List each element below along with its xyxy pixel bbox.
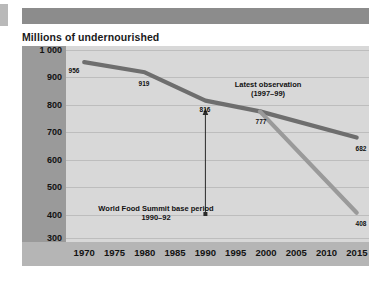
left-edge-decoration xyxy=(0,4,8,26)
y-tick-label: 400 xyxy=(47,210,62,220)
y-tick-label: 700 xyxy=(47,127,62,137)
x-tick-label: 1970 xyxy=(74,247,95,258)
y-tick-label: 900 xyxy=(47,72,62,82)
point-value-label-2015-lower: 408 xyxy=(356,220,367,227)
x-tick-label: 2005 xyxy=(286,247,307,258)
summit-base-period-annotation: World Food Summit base period 1990–92 xyxy=(98,204,213,223)
y-tick-label: 500 xyxy=(47,182,62,192)
latest-observation-line1: Latest observation xyxy=(235,80,302,89)
x-tick-label: 2000 xyxy=(255,247,276,258)
point-value-label-1990: 816 xyxy=(200,106,211,113)
y-tick-label: 600 xyxy=(47,155,62,165)
latest-observation-annotation: Latest observation (1997–99) xyxy=(235,80,302,99)
x-tick-label: 2010 xyxy=(316,247,337,258)
header-bar-decoration xyxy=(22,8,369,24)
y-axis-band: 1 000 900 800 700 600 500 400 300 xyxy=(22,46,66,242)
x-tick-label: 2015 xyxy=(346,247,367,258)
summit-annotation-line2: 1990–92 xyxy=(98,213,213,222)
point-value-label-2015-upper: 682 xyxy=(356,145,367,152)
x-tick-label: 1990 xyxy=(195,247,216,258)
summit-annotation-line1: World Food Summit base period xyxy=(98,204,213,213)
x-tick-label: 1980 xyxy=(134,247,155,258)
point-value-label-1999: 777 xyxy=(256,118,267,125)
y-tick-label: 800 xyxy=(47,100,62,110)
x-tick-label: 1995 xyxy=(225,247,246,258)
series-observed-line xyxy=(84,62,260,111)
y-tick-label: 1 000 xyxy=(39,45,62,55)
x-tick-label: 1975 xyxy=(104,247,125,258)
chart-figure: 1 000 900 800 700 600 500 400 300 1970 1… xyxy=(22,46,369,266)
chart-title: Millions of undernourished xyxy=(22,31,159,43)
point-value-label-1970: 956 xyxy=(69,67,80,74)
latest-observation-line2: (1997–99) xyxy=(235,89,302,98)
point-value-label-1980: 919 xyxy=(139,80,150,87)
x-tick-label: 1985 xyxy=(165,247,186,258)
